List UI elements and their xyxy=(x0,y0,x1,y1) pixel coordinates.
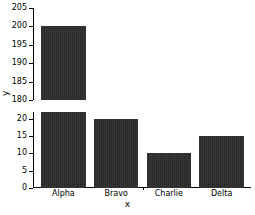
lower-tick-mark-0 xyxy=(29,188,33,189)
x-tick-label-alpha: Alpha xyxy=(52,189,75,198)
x-tick-bravo: Bravo xyxy=(90,190,143,198)
upper-tick-mark-195 xyxy=(29,45,33,46)
upper-tick-mark-185 xyxy=(29,82,33,83)
lower-tick-mark-20 xyxy=(29,119,33,120)
bar-slot-delta xyxy=(195,112,248,188)
upper-tick-mark-200 xyxy=(29,26,33,27)
lower-panel: 20 15 10 5 0 xyxy=(33,112,251,188)
upper-panel: 205 200 195 190 185 180 xyxy=(33,8,251,100)
upper-tick-label-195: 195 xyxy=(12,41,27,49)
lower-tick-label-5: 5 xyxy=(22,167,27,175)
x-axis-tick-labels: Alpha Bravo Charlie Delta xyxy=(34,190,251,198)
upper-tick-label-190: 190 xyxy=(12,59,27,67)
lower-tick-label-10: 10 xyxy=(17,149,27,157)
bar-delta xyxy=(199,136,243,188)
upper-tick-label-200: 200 xyxy=(12,22,27,30)
x-tick-label-delta: Delta xyxy=(211,189,232,198)
bar-slot-alpha-upper xyxy=(37,8,90,100)
x-axis-label: x xyxy=(0,200,255,209)
upper-tick-mark-205 xyxy=(29,8,33,9)
lower-tick-mark-5 xyxy=(29,171,33,172)
x-tick-label-charlie: Charlie xyxy=(155,189,183,198)
bar-slot-delta-upper xyxy=(195,8,248,100)
bar-slot-alpha-lower xyxy=(37,112,90,188)
lower-tick-label-20: 20 xyxy=(17,115,27,123)
x-tick-delta: Delta xyxy=(195,190,248,198)
x-tick-charlie: Charlie xyxy=(143,190,196,198)
bar-slot-bravo-upper xyxy=(90,8,143,100)
x-tick-label-bravo: Bravo xyxy=(104,189,127,198)
bar-chart-figure: y 205 200 195 190 185 180 20 xyxy=(0,0,255,215)
upper-tick-label-185: 185 xyxy=(12,78,27,86)
x-tick-mark-delta xyxy=(143,187,144,190)
upper-tick-label-205: 205 xyxy=(12,4,27,12)
bar-alpha-upper xyxy=(41,26,85,100)
upper-panel-bars xyxy=(34,8,251,100)
bar-alpha-lower xyxy=(41,112,85,188)
upper-tick-mark-190 xyxy=(29,63,33,64)
bar-slot-bravo xyxy=(90,112,143,188)
upper-tick-label-180: 180 xyxy=(12,96,27,104)
upper-tick-mark-180 xyxy=(29,100,33,101)
lower-panel-bars xyxy=(34,112,251,188)
bar-charlie xyxy=(147,153,191,188)
bar-bravo xyxy=(94,119,138,188)
lower-tick-label-0: 0 xyxy=(22,184,27,192)
x-tick-alpha: Alpha xyxy=(37,190,90,198)
bar-slot-charlie xyxy=(143,112,196,188)
bar-slot-charlie-upper xyxy=(143,8,196,100)
y-axis-label: y xyxy=(1,91,10,96)
lower-tick-mark-10 xyxy=(29,153,33,154)
lower-tick-mark-15 xyxy=(29,136,33,137)
lower-tick-label-15: 15 xyxy=(17,132,27,140)
